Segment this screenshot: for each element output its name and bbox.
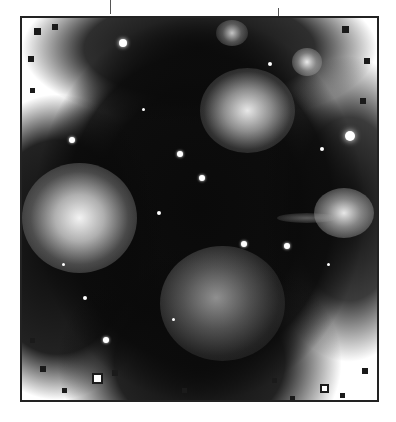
- star: [268, 62, 272, 66]
- edge-artifact: [30, 338, 35, 343]
- edge-artifact: [112, 370, 118, 376]
- astronomical-image: [20, 16, 379, 402]
- edge-artifact: [340, 393, 345, 398]
- edge-artifact: [290, 396, 295, 401]
- star: [69, 137, 75, 143]
- star: [345, 131, 355, 141]
- edge-artifact: [28, 56, 34, 62]
- edge-artifact: [272, 378, 277, 383]
- star: [103, 337, 109, 343]
- star: [199, 175, 205, 181]
- edge-artifact: [34, 28, 41, 35]
- star: [327, 263, 330, 266]
- top-glow: [216, 20, 248, 46]
- star: [177, 151, 183, 157]
- edge-artifact: [360, 98, 366, 104]
- star: [83, 296, 87, 300]
- edge-artifact: [364, 58, 370, 64]
- edge-artifact: [320, 384, 329, 393]
- edge-artifact: [342, 26, 349, 33]
- star: [172, 318, 175, 321]
- star: [241, 241, 247, 247]
- star: [119, 39, 127, 47]
- left-nebula: [22, 163, 137, 273]
- star: [142, 108, 145, 111]
- star: [320, 147, 324, 151]
- star: [157, 211, 161, 215]
- lower-center-nebula: [160, 246, 285, 361]
- nebula-streak: [277, 213, 337, 223]
- edge-artifact: [62, 388, 67, 393]
- star: [62, 263, 65, 266]
- upper-right-glow: [292, 48, 322, 76]
- edge-artifact: [40, 366, 46, 372]
- edge-artifact: [52, 24, 58, 30]
- edge-artifact: [362, 368, 368, 374]
- edge-artifact: [92, 373, 103, 384]
- star: [284, 243, 290, 249]
- top-tick-mark: [278, 8, 279, 16]
- top-tick-mark: [110, 0, 111, 14]
- edge-artifact: [182, 388, 187, 393]
- upper-center-nebula: [200, 68, 295, 153]
- edge-artifact: [30, 88, 35, 93]
